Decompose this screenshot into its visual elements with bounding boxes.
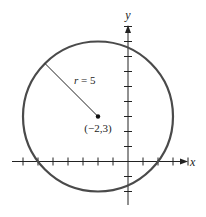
center-label: (−2,3) (84, 122, 112, 135)
coordinate-plane: x y r = 5 (−2,3) (0, 0, 206, 217)
radius-segment (45, 63, 98, 116)
center-point (96, 114, 100, 118)
x-axis-label: x (189, 155, 196, 169)
y-axis-label: y (124, 8, 131, 22)
x-axis-arrow-icon (180, 159, 188, 165)
radius-label: r = 5 (74, 74, 96, 86)
